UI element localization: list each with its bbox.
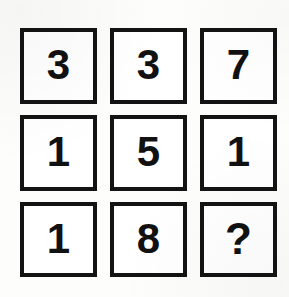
cell-value-r3c2: 8 <box>137 218 160 260</box>
puzzle-grid: 3 3 7 1 5 1 1 8 ? <box>20 28 268 278</box>
grid-cell-r3c1[interactable]: 1 <box>20 202 97 277</box>
cell-value-r1c3: 7 <box>227 44 250 86</box>
cell-value-r1c2: 3 <box>137 44 160 86</box>
grid-cell-r2c1[interactable]: 1 <box>20 115 97 191</box>
number-grid-puzzle: 3 3 7 1 5 1 1 8 ? <box>0 0 289 297</box>
cell-value-r1c1: 3 <box>47 44 70 86</box>
cell-value-r3c3: ? <box>225 217 252 261</box>
grid-cell-r1c1[interactable]: 3 <box>20 28 97 104</box>
grid-cell-r1c3[interactable]: 7 <box>200 28 277 104</box>
grid-cell-r1c2[interactable]: 3 <box>110 28 187 104</box>
grid-cell-r3c3-unknown[interactable]: ? <box>200 202 277 277</box>
grid-cell-r2c3[interactable]: 1 <box>200 115 277 191</box>
cell-value-r3c1: 1 <box>47 218 70 260</box>
cell-value-r2c3: 1 <box>227 131 250 173</box>
grid-cell-r3c2[interactable]: 8 <box>110 202 187 277</box>
cell-value-r2c2: 5 <box>137 131 160 173</box>
grid-cell-r2c2[interactable]: 5 <box>110 115 187 191</box>
cell-value-r2c1: 1 <box>47 131 70 173</box>
